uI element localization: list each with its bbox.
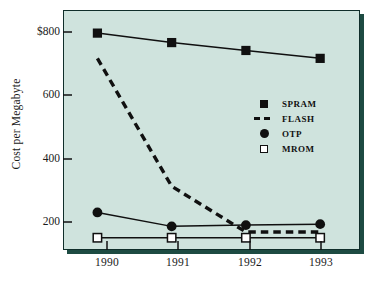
legend-label-mrom: MROM [282, 144, 315, 154]
data-point-otp-1992 [241, 220, 251, 230]
dashed-line-icon [253, 112, 275, 125]
data-point-mrom-1991 [167, 234, 175, 242]
legend-label-otp: OTP [282, 129, 302, 139]
legend-item-otp: OTP [253, 126, 317, 141]
x-tick-label-1990: 1990 [77, 256, 137, 268]
data-point-spram-1992 [241, 46, 250, 55]
y-axis-title: Cost per Megabyte [10, 54, 22, 194]
legend-item-flash: FLASH [253, 111, 317, 126]
data-point-spram-1991 [167, 38, 176, 47]
chart-figure: $800 600 400 200 Cost per Megabyte 1990 … [0, 0, 367, 282]
y-tick-label-400: 400 [0, 152, 60, 164]
y-tick-label-200: 200 [0, 215, 60, 227]
legend-label-flash: FLASH [282, 114, 315, 124]
data-point-mrom-1993 [316, 234, 324, 242]
data-point-mrom-1992 [242, 234, 250, 242]
open-square-icon [253, 142, 275, 155]
x-tick-label-1993: 1993 [291, 256, 351, 268]
x-tick-label-1992: 1992 [220, 256, 280, 268]
series-line-spram [97, 33, 320, 58]
y-tick-label-800: $800 [0, 25, 60, 37]
x-tick-label-1991: 1991 [148, 256, 208, 268]
filled-square-icon [253, 97, 275, 110]
data-point-mrom-1990 [93, 234, 101, 242]
data-point-otp-1993 [315, 219, 325, 229]
legend-label-spram: SPRAM [282, 99, 317, 109]
series-line-otp [97, 212, 320, 226]
chart-legend: SPRAM FLASH OTP MROM [253, 96, 317, 156]
data-point-spram-1993 [316, 54, 325, 63]
filled-circle-icon [253, 127, 275, 140]
data-point-otp-1990 [93, 208, 103, 218]
data-point-otp-1991 [167, 221, 177, 231]
data-point-spram-1990 [93, 29, 102, 38]
legend-item-mrom: MROM [253, 141, 317, 156]
legend-item-spram: SPRAM [253, 96, 317, 111]
y-tick-label-600: 600 [0, 88, 60, 100]
